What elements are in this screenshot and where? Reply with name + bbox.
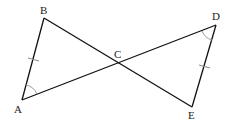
geometry-diagram: B A C D E [0, 0, 232, 122]
label-e: E [188, 109, 195, 121]
label-b: B [40, 4, 47, 16]
segment-ad [22, 25, 216, 100]
label-a: A [14, 103, 22, 115]
angle-arc-a [26, 85, 37, 94]
angle-arc-d [202, 31, 212, 40]
label-c: C [114, 48, 121, 60]
label-d: D [212, 10, 220, 22]
